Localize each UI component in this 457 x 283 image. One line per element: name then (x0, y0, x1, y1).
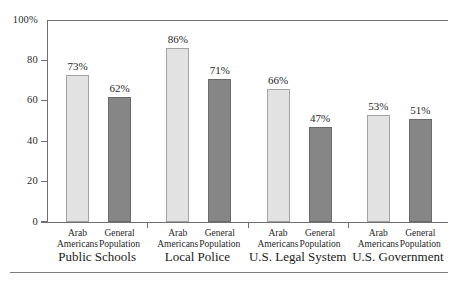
series-label-line1: Arab (269, 228, 288, 238)
bar-arab-americans-4 (367, 115, 390, 222)
bars-container (47, 20, 448, 222)
bar-value-label: 66% (257, 75, 300, 86)
bar-value-label: 51% (399, 105, 442, 116)
bar-general-population-1 (108, 97, 131, 222)
series-label-line2: Americans (57, 239, 98, 249)
series-label-line1: Arab (168, 228, 187, 238)
bar-general-population-3 (309, 127, 332, 222)
series-label-line1: General (405, 228, 435, 238)
series-label-line2: Population (199, 239, 240, 249)
series-label: GeneralPopulation (94, 228, 145, 249)
series-label: GeneralPopulation (295, 228, 346, 249)
series-label-line2: Americans (157, 239, 198, 249)
series-label-line1: General (205, 228, 235, 238)
bar-value-label: 62% (98, 83, 141, 94)
series-label: GeneralPopulation (395, 228, 446, 249)
series-label-line2: Population (299, 239, 340, 249)
group-label-3: U.S. Legal System (248, 250, 348, 264)
series-label-line1: General (104, 228, 134, 238)
series-label-line1: Arab (369, 228, 388, 238)
bar-value-label: 53% (357, 101, 400, 112)
bar-general-population-4 (409, 119, 432, 222)
y-axis-label-100: 100% (0, 15, 38, 26)
y-axis-label-80: 80 (0, 55, 38, 66)
bar-value-label: 71% (198, 65, 241, 76)
x-axis-group-tick-1 (147, 222, 148, 228)
series-label-line2: Americans (358, 239, 399, 249)
series-label-line2: Population (99, 239, 140, 249)
bar-value-label: 86% (156, 34, 199, 45)
group-label-4: U.S. Government (348, 250, 448, 264)
bar-arab-americans-2 (166, 48, 189, 222)
series-label-line2: Americans (257, 239, 298, 249)
y-axis-label-40: 40 (0, 136, 38, 147)
bar-arab-americans-3 (267, 89, 290, 222)
series-label-line1: General (305, 228, 335, 238)
y-axis-label-0: 0 (0, 217, 38, 228)
bar-arab-americans-1 (66, 75, 89, 222)
series-label: GeneralPopulation (194, 228, 245, 249)
group-label-2: Local Police (147, 250, 247, 264)
series-label-line2: Population (400, 239, 441, 249)
y-axis-label-60: 60 (0, 95, 38, 106)
footer-divider (10, 272, 448, 273)
bar-value-label: 73% (56, 61, 99, 72)
bar-value-label: 47% (299, 113, 342, 124)
bar-chart-figure: 020406080100% 73%ArabAmericans62%General… (0, 0, 457, 283)
series-label-line1: Arab (68, 228, 87, 238)
bar-general-population-2 (208, 79, 231, 222)
x-axis-group-tick-3 (348, 222, 349, 228)
y-axis-label-20: 20 (0, 176, 38, 187)
x-axis-group-tick-2 (248, 222, 249, 228)
group-label-1: Public Schools (47, 250, 147, 264)
